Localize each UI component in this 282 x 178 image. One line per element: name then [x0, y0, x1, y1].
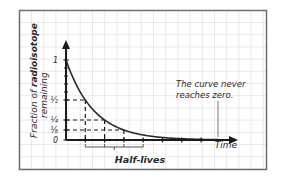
annotation-line-1: The curve never — [176, 79, 246, 89]
annotation-line-2: reaches zero. — [176, 90, 233, 100]
half-lives-label: Half-lives — [115, 154, 166, 165]
y-tick-label: ½ — [50, 96, 58, 105]
y-axis-label-line-2: remaining — [39, 72, 49, 118]
y-tick-label: 1 — [53, 56, 58, 65]
y-axis-label-bold: radioisotope — [29, 23, 39, 87]
y-tick-label: ¼ — [50, 116, 58, 125]
half-life-chart: 1½¼⅛0 Half-lives Time The curve never re… — [0, 0, 282, 178]
y-axis-arrow-icon — [62, 40, 70, 49]
y-axis-label: Fraction of radioisotope remaining — [29, 23, 49, 138]
y-axis-label-prefix: Fraction of — [29, 87, 39, 138]
y-tick-label: 0 — [53, 136, 58, 145]
y-tick-label: ⅛ — [50, 126, 58, 135]
svg-text:Fraction of radioisotope: Fraction of radioisotope — [29, 23, 39, 138]
x-axis-label: Time — [215, 140, 238, 150]
